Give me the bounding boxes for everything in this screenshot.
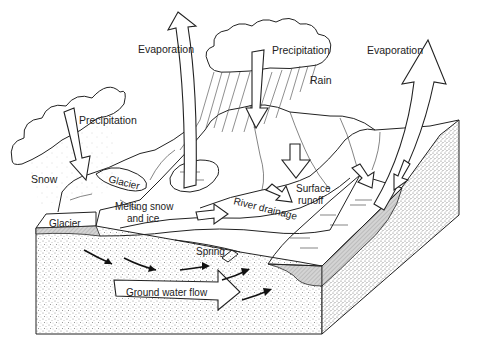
- label-spring: Spring: [196, 246, 225, 257]
- label-snow: Snow: [31, 173, 58, 185]
- arrow-surface-runoff-down: [282, 144, 310, 178]
- label-evaporation-left: Evaporation: [138, 43, 194, 55]
- label-precipitation-left: Precipitation: [79, 114, 137, 126]
- label-ground-water-flow: Ground water flow: [126, 287, 208, 298]
- arrow-evaporation-left: [168, 12, 196, 188]
- label-surface-runoff-line2: runoff: [298, 195, 324, 206]
- arrow-river-drainage: [196, 204, 228, 224]
- water-cycle-diagram: Evaporation Evaporation Precipitation Pr…: [0, 0, 479, 344]
- label-melting-line2: and ice: [127, 213, 160, 224]
- label-surface-runoff-line1: Surface: [296, 183, 331, 194]
- label-rain: Rain: [310, 74, 332, 86]
- label-precipitation-center: Precipitation: [272, 44, 330, 56]
- label-melting-line1: Melting snow: [115, 201, 174, 212]
- label-glacier-lower: Glacier: [49, 218, 81, 229]
- label-evaporation-right: Evaporation: [367, 44, 423, 56]
